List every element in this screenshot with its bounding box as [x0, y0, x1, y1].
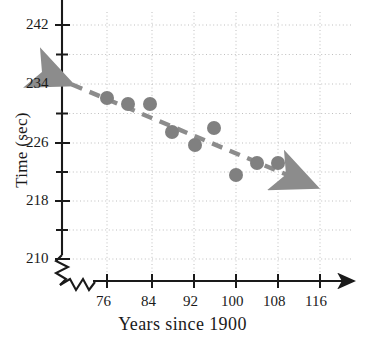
x-tick-label-108: 108 [263, 294, 286, 309]
data-point [271, 156, 285, 170]
data-point [100, 91, 114, 105]
data-point [188, 138, 202, 152]
data-point [143, 97, 157, 111]
data-point [250, 156, 264, 170]
x-tick-label-116: 116 [305, 294, 327, 309]
x-axis-break-icon [60, 279, 95, 290]
scatter-chart: 242 234 226 218 210 76 84 92 100 108 116… [0, 0, 365, 344]
data-points [100, 91, 285, 182]
data-point [165, 125, 179, 139]
data-point [207, 121, 221, 135]
data-point [121, 97, 135, 111]
data-point [229, 168, 243, 182]
y-tick-label-210: 210 [26, 251, 49, 266]
y-tick-label-242: 242 [26, 17, 49, 32]
x-tick-label-76: 76 [96, 294, 111, 309]
y-axis-title: Time (sec) [12, 80, 32, 220]
gridlines-horizontal [62, 25, 352, 259]
x-tick-label-84: 84 [141, 294, 156, 309]
x-axis-title: Years since 1900 [0, 314, 365, 335]
x-tick-label-100: 100 [221, 294, 244, 309]
x-tick-label-92: 92 [183, 294, 198, 309]
